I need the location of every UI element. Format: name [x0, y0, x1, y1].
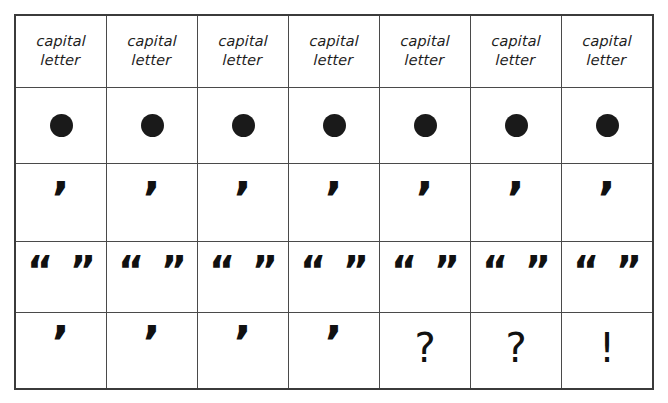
apostrophe-mark: ’	[52, 320, 70, 366]
terminal-cell-7[interactable]: !	[562, 313, 652, 388]
question-mark: ?	[505, 328, 526, 368]
apostrophe-mark: ’	[52, 176, 70, 222]
apostrophe-mark: ’	[325, 320, 343, 366]
exclamation-mark: !	[599, 328, 615, 368]
question-mark: ?	[414, 328, 435, 368]
table-row-terminal-punctuation: ’ ’ ’ ’ ? ? !	[16, 313, 652, 388]
quotation-cell-4[interactable]: “ ”	[289, 242, 380, 312]
close-quote-mark: ”	[616, 251, 641, 291]
terminal-cell-6[interactable]: ?	[471, 313, 562, 388]
quotation-pair: “ ”	[471, 242, 561, 312]
header-cell-5[interactable]: capital letter	[380, 16, 471, 87]
apostrophe-cell-7[interactable]: ’	[562, 164, 652, 241]
apostrophe-mark: ’	[507, 176, 525, 222]
quotation-pair: “ ”	[16, 242, 106, 312]
close-quote-mark: ”	[434, 251, 459, 291]
full-stop-dot-icon	[596, 114, 619, 137]
open-quote-mark: “	[391, 251, 416, 291]
worksheet-sheet: capital letter capital letter capital le…	[0, 0, 668, 403]
full-stop-cell-1[interactable]	[16, 88, 107, 163]
full-stop-dot-icon	[505, 114, 528, 137]
terminal-cell-4[interactable]: ’	[289, 313, 380, 388]
open-quote-mark: “	[573, 251, 598, 291]
quotation-pair: “ ”	[380, 242, 470, 312]
terminal-cell-5[interactable]: ?	[380, 313, 471, 388]
quotation-pair: “ ”	[562, 242, 652, 312]
apostrophe-mark: ’	[234, 320, 252, 366]
header-cell-1[interactable]: capital letter	[16, 16, 107, 87]
apostrophe-cell-3[interactable]: ’	[198, 164, 289, 241]
open-quote-mark: “	[209, 251, 234, 291]
full-stop-cell-2[interactable]	[107, 88, 198, 163]
close-quote-mark: ”	[70, 251, 95, 291]
full-stop-cell-5[interactable]	[380, 88, 471, 163]
full-stop-dot-icon	[232, 114, 255, 137]
apostrophe-mark: ’	[598, 176, 616, 222]
quotation-cell-6[interactable]: “ ”	[471, 242, 562, 312]
terminal-cell-1[interactable]: ’	[16, 313, 107, 388]
close-quote-mark: ”	[343, 251, 368, 291]
quotation-pair: “ ”	[107, 242, 197, 312]
apostrophe-cell-5[interactable]: ’	[380, 164, 471, 241]
quotation-cell-3[interactable]: “ ”	[198, 242, 289, 312]
close-quote-mark: ”	[161, 251, 186, 291]
full-stop-cell-4[interactable]	[289, 88, 380, 163]
header-cell-4[interactable]: capital letter	[289, 16, 380, 87]
table-row-apostrophe: ’ ’ ’ ’ ’ ’ ’	[16, 164, 652, 242]
quotation-pair: “ ”	[198, 242, 288, 312]
full-stop-cell-3[interactable]	[198, 88, 289, 163]
quotation-pair: “ ”	[289, 242, 379, 312]
quotation-cell-1[interactable]: “ ”	[16, 242, 107, 312]
capital-letter-label: capital letter	[400, 32, 451, 70]
header-cell-3[interactable]: capital letter	[198, 16, 289, 87]
apostrophe-mark: ’	[234, 176, 252, 222]
apostrophe-mark: ’	[143, 320, 161, 366]
terminal-cell-3[interactable]: ’	[198, 313, 289, 388]
close-quote-mark: ”	[252, 251, 277, 291]
open-quote-mark: “	[27, 251, 52, 291]
full-stop-dot-icon	[414, 114, 437, 137]
full-stop-dot-icon	[50, 114, 73, 137]
quotation-cell-2[interactable]: “ ”	[107, 242, 198, 312]
terminal-cell-2[interactable]: ’	[107, 313, 198, 388]
full-stop-cell-7[interactable]	[562, 88, 652, 163]
apostrophe-cell-1[interactable]: ’	[16, 164, 107, 241]
open-quote-mark: “	[482, 251, 507, 291]
apostrophe-mark: ’	[325, 176, 343, 222]
capital-letter-label: capital letter	[309, 32, 360, 70]
close-quote-mark: ”	[525, 251, 550, 291]
full-stop-cell-6[interactable]	[471, 88, 562, 163]
capital-letter-label: capital letter	[582, 32, 633, 70]
apostrophe-mark: ’	[416, 176, 434, 222]
open-quote-mark: “	[300, 251, 325, 291]
table-row-full-stop	[16, 88, 652, 164]
header-cell-7[interactable]: capital letter	[562, 16, 652, 87]
punctuation-grid: capital letter capital letter capital le…	[14, 14, 654, 390]
header-cell-2[interactable]: capital letter	[107, 16, 198, 87]
capital-letter-label: capital letter	[127, 32, 178, 70]
apostrophe-cell-6[interactable]: ’	[471, 164, 562, 241]
apostrophe-cell-4[interactable]: ’	[289, 164, 380, 241]
table-row-quotation-marks: “ ” “ ” “ ” “ ”	[16, 242, 652, 313]
capital-letter-label: capital letter	[36, 32, 87, 70]
quotation-cell-5[interactable]: “ ”	[380, 242, 471, 312]
apostrophe-cell-2[interactable]: ’	[107, 164, 198, 241]
header-cell-6[interactable]: capital letter	[471, 16, 562, 87]
capital-letter-label: capital letter	[491, 32, 542, 70]
full-stop-dot-icon	[141, 114, 164, 137]
capital-letter-label: capital letter	[218, 32, 269, 70]
quotation-cell-7[interactable]: “ ”	[562, 242, 652, 312]
table-row-header: capital letter capital letter capital le…	[16, 16, 652, 88]
open-quote-mark: “	[118, 251, 143, 291]
full-stop-dot-icon	[323, 114, 346, 137]
apostrophe-mark: ’	[143, 176, 161, 222]
